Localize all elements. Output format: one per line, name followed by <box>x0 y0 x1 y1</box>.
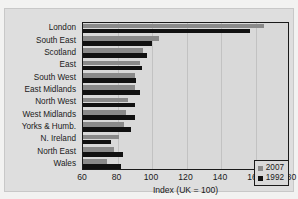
category-label-n-ireland: N. Ireland <box>41 134 77 144</box>
legend-item-1992: 1992 <box>258 173 284 183</box>
bar-group <box>83 134 290 146</box>
legend-swatch-2007 <box>258 166 263 171</box>
bar-2007-south-east <box>83 36 159 41</box>
bar-series-container <box>83 23 288 169</box>
x-tick-label-120: 120 <box>178 172 192 182</box>
x-axis-title: Index (UK = 100) <box>82 185 289 195</box>
x-tick-label-80: 80 <box>112 172 122 182</box>
bar-group <box>83 122 290 134</box>
bar-group <box>83 72 290 84</box>
x-tick-label-60: 60 <box>77 172 87 182</box>
bar-1992-north-east <box>83 152 123 157</box>
bar-1992-n-ireland <box>83 140 111 145</box>
bar-2007-wales <box>83 159 107 164</box>
bar-1992-south-east <box>83 41 152 46</box>
bar-1992-scotland <box>83 53 147 58</box>
category-label-south-east: South East <box>36 36 76 46</box>
bar-2007-west-midlands <box>83 110 126 115</box>
category-label-london: London <box>49 23 76 33</box>
category-label-west-midlands: West Midlands <box>22 110 76 120</box>
category-label-east-midlands: East Midlands <box>25 85 76 95</box>
bar-2007-north-east <box>83 147 114 152</box>
bar-2007-n-ireland <box>83 135 119 140</box>
bar-1992-west-midlands <box>83 115 135 120</box>
category-label-scotland: Scotland <box>44 48 76 58</box>
bar-1992-london <box>83 29 250 34</box>
category-label-north-west: North West <box>35 97 76 107</box>
bar-1992-south-west <box>83 78 136 83</box>
bar-2007-east <box>83 61 140 66</box>
bar-2007-north-west <box>83 98 128 103</box>
bar-group <box>83 60 290 72</box>
bar-2007-yorks-humb <box>83 122 124 127</box>
category-label-wales: Wales <box>54 159 76 169</box>
category-label-south-west: South West <box>34 73 76 83</box>
chart-canvas: LondonSouth EastScotlandEastSouth WestEa… <box>4 8 294 192</box>
bar-2007-london <box>83 24 264 29</box>
chart-legend: 20071992 <box>254 160 289 186</box>
bar-1992-east-midlands <box>83 90 140 95</box>
bar-2007-south-west <box>83 73 135 78</box>
legend-label-1992: 1992 <box>266 173 284 183</box>
bar-2007-scotland <box>83 48 143 53</box>
legend-swatch-1992 <box>258 176 263 181</box>
bar-2007-east-midlands <box>83 85 135 90</box>
bar-group <box>83 109 290 121</box>
bar-group <box>83 48 290 60</box>
x-tick-label-140: 140 <box>213 172 227 182</box>
bar-group <box>83 97 290 109</box>
bar-group <box>83 35 290 47</box>
legend-label-2007: 2007 <box>266 163 284 173</box>
bar-group <box>83 23 290 35</box>
x-tick-label-100: 100 <box>144 172 158 182</box>
bar-1992-north-west <box>83 103 135 108</box>
bar-group <box>83 85 290 97</box>
category-label-yorks-humb: Yorks & Humb. <box>22 122 76 132</box>
bar-1992-east <box>83 66 142 71</box>
category-label-east: East <box>60 60 76 70</box>
legend-item-2007: 2007 <box>258 163 284 173</box>
category-axis-labels: LondonSouth EastScotlandEastSouth WestEa… <box>5 22 79 170</box>
chart-figure: LondonSouth EastScotlandEastSouth WestEa… <box>0 0 298 199</box>
bar-group <box>83 146 290 158</box>
bar-1992-wales <box>83 164 121 169</box>
plot-area <box>82 22 289 170</box>
category-label-north-east: North East <box>37 147 76 157</box>
bar-1992-yorks-humb <box>83 127 131 132</box>
